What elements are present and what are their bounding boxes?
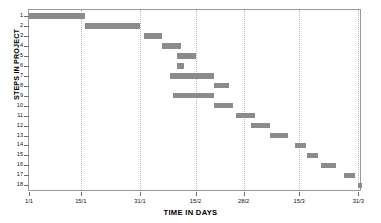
y-axis-tick <box>24 185 29 186</box>
y-axis-tick <box>24 145 29 146</box>
gantt-bar-step-15[interactable] <box>307 153 318 158</box>
gantt-bar-step-3[interactable] <box>144 33 163 38</box>
y-axis-label-17: 17 <box>3 172 23 178</box>
gantt-bar-step-7[interactable] <box>170 73 214 78</box>
gantt-bar-step-9[interactable] <box>173 93 214 98</box>
y-axis-tick <box>24 76 29 77</box>
y-axis-label-15: 15 <box>3 152 23 158</box>
x-axis-label-31-3: 31/3 <box>338 198 378 204</box>
y-axis-tick <box>24 175 29 176</box>
x-axis-tick <box>196 192 197 196</box>
x-axis-label-15-3: 15/3 <box>279 198 319 204</box>
gantt-bar-step-17[interactable] <box>344 173 355 178</box>
y-axis-tick <box>24 155 29 156</box>
y-axis-label-14: 14 <box>3 142 23 148</box>
gantt-bar-step-10[interactable] <box>214 103 233 108</box>
y-axis-tick <box>24 56 29 57</box>
x-axis-label-28-2: 28/2 <box>224 198 264 204</box>
gantt-bar-step-8[interactable] <box>214 83 229 88</box>
y-axis-label-18: 18 <box>3 182 23 188</box>
y-axis-label-7: 7 <box>3 73 23 79</box>
gridline-15-1 <box>81 10 82 190</box>
plot-area: 1234567891011121314151617181/115/131/115… <box>28 9 361 191</box>
gantt-bar-step-1[interactable] <box>29 13 85 18</box>
y-axis-label-5: 5 <box>3 53 23 59</box>
y-axis-tick <box>24 96 29 97</box>
x-axis-label-1-1: 1/1 <box>9 198 49 204</box>
y-axis-label-12: 12 <box>3 123 23 129</box>
x-axis-tick <box>244 192 245 196</box>
gridline-31-1 <box>140 10 141 190</box>
y-axis-tick <box>24 66 29 67</box>
y-axis-tick <box>24 165 29 166</box>
y-axis-tick <box>24 26 29 27</box>
gridline-28-2 <box>244 10 245 190</box>
x-axis-tick <box>81 192 82 196</box>
y-axis-tick <box>24 86 29 87</box>
gantt-bar-step-5[interactable] <box>177 53 196 58</box>
y-axis-label-9: 9 <box>3 93 23 99</box>
gantt-bar-step-16[interactable] <box>321 163 336 168</box>
y-axis-tick <box>24 116 29 117</box>
gantt-bar-step-13[interactable] <box>270 133 289 138</box>
gantt-bar-step-2[interactable] <box>85 23 141 28</box>
y-axis-tick <box>24 136 29 137</box>
gantt-bar-step-6[interactable] <box>177 63 184 68</box>
x-axis-label-31-1: 31/1 <box>120 198 160 204</box>
y-axis-label-16: 16 <box>3 162 23 168</box>
y-axis-label-3: 3 <box>3 33 23 39</box>
y-axis-label-10: 10 <box>3 103 23 109</box>
gridline-15-2 <box>196 10 197 190</box>
y-axis-tick <box>24 126 29 127</box>
y-axis-tick <box>24 106 29 107</box>
y-axis-label-13: 13 <box>3 133 23 139</box>
x-axis-label-15-1: 15/1 <box>61 198 101 204</box>
gantt-chart-figure: STEPS IN PROJECT 12345678910111213141516… <box>0 0 381 223</box>
y-axis-label-1: 1 <box>3 13 23 19</box>
x-axis-title: TIME IN DAYS <box>0 208 381 217</box>
gridline-31-3 <box>358 10 359 190</box>
x-axis-tick <box>299 192 300 196</box>
x-axis-tick <box>140 192 141 196</box>
y-axis-label-6: 6 <box>3 63 23 69</box>
y-axis-label-11: 11 <box>3 113 23 119</box>
y-axis-label-2: 2 <box>3 23 23 29</box>
gantt-bar-step-12[interactable] <box>251 123 270 128</box>
y-axis-label-8: 8 <box>3 83 23 89</box>
gantt-bar-step-11[interactable] <box>236 113 255 118</box>
y-axis-tick <box>24 46 29 47</box>
gantt-bar-step-14[interactable] <box>295 143 306 148</box>
gridline-15-3 <box>299 10 300 190</box>
y-axis-tick <box>24 36 29 37</box>
x-axis-tick <box>358 192 359 196</box>
x-axis-tick <box>29 192 30 196</box>
gantt-bar-step-18[interactable] <box>358 183 362 188</box>
gantt-bar-step-4[interactable] <box>162 43 181 48</box>
x-axis-label-15-2: 15/2 <box>176 198 216 204</box>
y-axis-label-4: 4 <box>3 43 23 49</box>
